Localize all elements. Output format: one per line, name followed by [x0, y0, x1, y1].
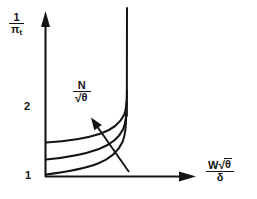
radicand-theta: θ [224, 158, 232, 170]
x-axis-label-denominator: δ [206, 172, 234, 183]
y-axis-label-fraction: 1 πt [9, 12, 24, 36]
y-axis-arrowhead [41, 11, 50, 27]
y-axis-label-denominator: πt [9, 24, 24, 35]
x-axis-label: W√θ δ [206, 159, 234, 184]
pi-subscript-t: t [19, 28, 22, 37]
speed-parameter-denominator: √θ [73, 92, 91, 104]
y-tick-label-1: 1 [25, 170, 31, 181]
speed-curve-low [46, 114, 126, 175]
y-tick-label-2: 2 [24, 101, 30, 112]
flow-symbol-w: W [208, 159, 218, 171]
chart-figure: 2 1 1 πt W√θ δ N √θ [0, 0, 257, 199]
x-axis-label-numerator: W√θ [206, 159, 234, 172]
trend-arrow-head [91, 118, 102, 131]
speed-parameter-fraction: N √θ [73, 80, 91, 105]
x-axis-arrowhead [179, 172, 196, 182]
radicand-theta-annotation: θ [81, 91, 89, 103]
y-axis-label: 1 πt [9, 12, 24, 36]
x-axis-label-fraction: W√θ δ [206, 159, 234, 184]
speed-parameter-label: N √θ [73, 80, 91, 105]
sqrt-theta-radical: √θ [218, 159, 232, 171]
sqrt-theta-radical-annotation: √θ [75, 92, 89, 104]
